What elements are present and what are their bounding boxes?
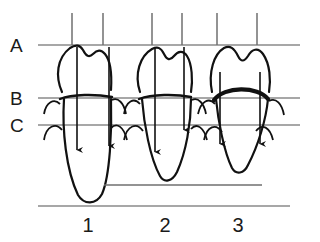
tooth-number-2: 2 xyxy=(159,214,170,236)
tooth-3-group: 3 xyxy=(198,47,284,236)
tooth-number-3: 3 xyxy=(232,214,243,236)
tick-mark-group xyxy=(72,13,257,45)
tooth-1-root xyxy=(64,99,112,202)
tooth-number-1: 1 xyxy=(82,214,93,236)
reference-label-c: C xyxy=(10,115,24,136)
tooth-1-bone-crest-mesial xyxy=(44,126,62,140)
reference-label-a: A xyxy=(10,35,23,56)
reference-label-b: B xyxy=(10,88,23,109)
tooth-1-crown xyxy=(58,46,111,92)
tooth-2-group: 2 xyxy=(124,47,207,236)
tooth-3-bone-distal xyxy=(269,100,284,115)
diagram-canvas: A B C 1 xyxy=(0,0,320,242)
dental-reference-figure: A B C 1 xyxy=(0,0,320,242)
tooth-1-bone-mesial xyxy=(44,101,60,114)
tooth-1-group: 1 xyxy=(44,46,127,236)
